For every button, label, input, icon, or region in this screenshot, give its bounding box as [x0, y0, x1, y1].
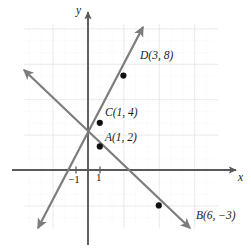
x-tick-label-neg-one: −1 — [68, 174, 80, 185]
point-D — [120, 73, 126, 79]
x-axis-label: x — [238, 172, 243, 184]
x-tick-label-pos-one: 1 — [96, 172, 102, 183]
point-B — [156, 202, 162, 208]
point-label-D: D(3, 8) — [140, 50, 173, 62]
point-A — [97, 143, 103, 149]
point-C — [97, 120, 103, 126]
point-label-B: B(6, −3) — [196, 210, 236, 222]
y-axis-label: y — [76, 5, 81, 17]
point-label-C: C(1, 4) — [105, 107, 138, 119]
point-label-A: A(1, 2) — [105, 132, 137, 144]
coordinate-plane-figure: D(3, 8) C(1, 4) A(1, 2) B(6, −3) y x −1 … — [0, 0, 251, 249]
